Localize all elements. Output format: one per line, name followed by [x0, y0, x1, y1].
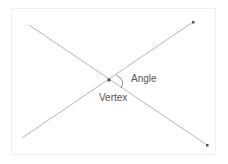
- endpoint-bottom-right: [206, 144, 209, 147]
- vertex-label: Vertex: [99, 92, 127, 103]
- angle-diagram: [0, 0, 228, 164]
- ray-line-1: [29, 25, 207, 145]
- vertex-point: [108, 79, 111, 82]
- endpoint-top-right: [192, 21, 195, 24]
- angle-label: Angle: [131, 73, 157, 84]
